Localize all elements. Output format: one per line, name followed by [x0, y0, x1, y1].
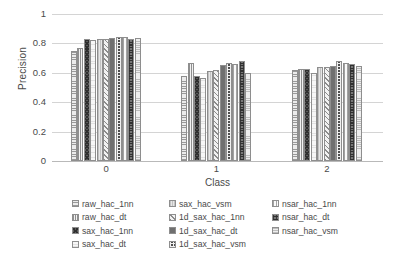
bar-raw_hac_dt-class-1	[188, 63, 194, 161]
x-axis-line	[52, 161, 383, 162]
bar-raw_hac_1nn-class-0	[71, 51, 77, 161]
bar-nsar_hac_1nn-class-0	[122, 37, 128, 161]
bar-1d_sax_hac_vsm-class-0	[116, 37, 122, 161]
bar-nsar_hac_1nn-class-2	[343, 63, 349, 161]
bar-sax_hac_vsm-class-0	[97, 39, 103, 161]
x-axis-title: Class	[52, 177, 383, 188]
bar-nsar_hac_dt-class-1	[239, 61, 245, 161]
legend-label: raw_hac_1nn	[82, 199, 134, 209]
x-tick-label-0: 0	[86, 163, 126, 174]
bar-sax_hac_1nn-class-0	[84, 39, 90, 161]
legend-item-1d_sax_hac_dt[interactable]: 1d_sax_hac_dt	[169, 226, 272, 236]
chart-legend: raw_hac_1nnsax_hac_vsmnsar_hac_1nnraw_ha…	[72, 197, 372, 251]
bar-nsar_hac_vsm-class-2	[356, 66, 362, 161]
bar-raw_hac_1nn-class-1	[181, 76, 187, 161]
bar-sax_hac_vsm-class-2	[317, 67, 323, 161]
bar-nsar_hac_dt-class-2	[349, 64, 355, 161]
x-tick-label-2: 2	[307, 163, 347, 174]
legend-swatch-icon	[72, 214, 79, 221]
bar-raw_hac_1nn-class-2	[292, 70, 298, 161]
x-axis-tick-labels: 012	[52, 163, 383, 177]
legend-label: sax_hac_vsm	[179, 199, 232, 209]
bar-1d_sax_hac_dt-class-2	[330, 66, 336, 161]
legend-swatch-icon	[72, 241, 79, 248]
y-tick-label: 0.8	[20, 38, 46, 48]
legend-item-1d_sax_hac_vsm[interactable]: 1d_sax_hac_vsm	[169, 239, 272, 249]
bar-1d_sax_hac_vsm-class-2	[336, 61, 342, 161]
bar-nsar_hac_1nn-class-1	[232, 64, 238, 161]
legend-item-sax_hac_1nn[interactable]: sax_hac_1nn	[72, 226, 169, 236]
legend-swatch-icon	[169, 227, 176, 234]
bar-raw_hac_dt-class-0	[77, 48, 83, 161]
legend-label: sax_hac_1nn	[82, 226, 133, 236]
y-tick-label: 0.6	[20, 68, 46, 78]
bar-sax_hac_dt-class-2	[311, 73, 317, 161]
legend-item-nsar_hac_1nn[interactable]: nsar_hac_1nn	[272, 199, 372, 209]
bar-group-1	[181, 14, 251, 161]
bar-sax_hac_vsm-class-1	[207, 71, 213, 161]
plot-area	[52, 14, 383, 161]
bar-nsar_hac_vsm-class-1	[245, 73, 251, 161]
y-axis-tick-labels: 10.80.60.40.20	[16, 0, 46, 258]
bar-1d_sax_hac_dt-class-0	[109, 38, 115, 161]
legend-label: sax_hac_dt	[82, 239, 126, 249]
legend-label: nsar_hac_1nn	[282, 199, 336, 209]
legend-item-sax_hac_vsm[interactable]: sax_hac_vsm	[169, 199, 272, 209]
bar-1d_sax_hac_1nn-class-2	[324, 67, 330, 161]
legend-swatch-icon	[272, 214, 279, 221]
bar-1d_sax_hac_vsm-class-1	[226, 63, 232, 161]
legend-item-raw_hac_dt[interactable]: raw_hac_dt	[72, 212, 169, 222]
bar-nsar_hac_vsm-class-0	[135, 38, 141, 161]
bar-raw_hac_dt-class-2	[298, 69, 304, 161]
legend-item-sax_hac_dt[interactable]: sax_hac_dt	[72, 239, 169, 249]
bar-sax_hac_dt-class-0	[90, 40, 96, 161]
y-tick-label: 0	[20, 156, 46, 166]
precision-bar-chart: Precision 10.80.60.40.20 012 Class raw_h…	[0, 0, 395, 258]
legend-item-1d_sax_hac_1nn[interactable]: 1d_sax_hac_1nn	[169, 212, 272, 222]
bar-sax_hac_1nn-class-1	[194, 76, 200, 161]
legend-swatch-icon	[72, 227, 79, 234]
legend-swatch-icon	[169, 241, 176, 248]
legend-label: 1d_sax_hac_dt	[179, 226, 237, 236]
bar-group-2	[292, 14, 362, 161]
legend-swatch-icon	[272, 227, 279, 234]
legend-label: raw_hac_dt	[82, 212, 126, 222]
legend-label: 1d_sax_hac_vsm	[179, 239, 246, 249]
legend-swatch-icon	[272, 200, 279, 207]
bar-1d_sax_hac_1nn-class-1	[213, 70, 219, 161]
legend-item-nsar_hac_dt[interactable]: nsar_hac_dt	[272, 212, 372, 222]
legend-item-nsar_hac_vsm[interactable]: nsar_hac_vsm	[272, 226, 372, 236]
bar-1d_sax_hac_1nn-class-0	[103, 39, 109, 161]
y-tick-label: 0.2	[20, 127, 46, 137]
bar-group-0	[71, 14, 141, 161]
legend-swatch-icon	[72, 200, 79, 207]
bar-1d_sax_hac_dt-class-1	[220, 65, 226, 161]
legend-item-raw_hac_1nn[interactable]: raw_hac_1nn	[72, 199, 169, 209]
legend-label: nsar_hac_vsm	[282, 226, 338, 236]
bar-sax_hac_1nn-class-2	[304, 69, 310, 161]
x-tick-label-1: 1	[197, 163, 237, 174]
legend-label: 1d_sax_hac_1nn	[179, 212, 244, 222]
bar-sax_hac_dt-class-1	[200, 78, 206, 161]
legend-swatch-icon	[169, 200, 176, 207]
y-tick-label: 0.4	[20, 97, 46, 107]
legend-swatch-icon	[169, 214, 176, 221]
legend-label: nsar_hac_dt	[282, 212, 329, 222]
y-tick-label: 1	[20, 9, 46, 19]
bar-nsar_hac_dt-class-0	[128, 39, 134, 161]
